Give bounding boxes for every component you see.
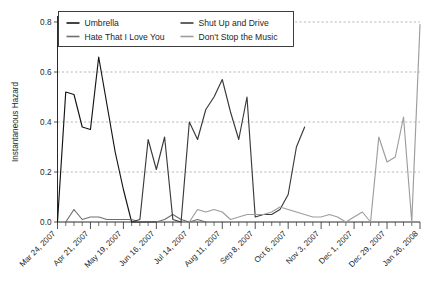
y-axis-title: Instantaneous Hazard [11,82,20,163]
y-tick-label: 0.0 [40,218,52,227]
y-tick-label: 0.4 [40,118,52,127]
legend-label: Don't Stop the Music [199,32,279,42]
y-tick-label: 0.2 [40,168,52,177]
chart-svg: 0.00.20.40.60.8 Mar 24, 2007Apr 21, 2007… [0,0,428,293]
legend-label: Umbrella [85,18,120,28]
legend-label: Shut Up and Drive [199,18,269,28]
y-tick-label: 0.8 [40,18,52,27]
legend-label: Hate That I Love You [85,32,165,42]
y-tick-label: 0.6 [40,68,52,77]
hazard-chart: 0.00.20.40.60.8 Mar 24, 2007Apr 21, 2007… [0,0,428,293]
chart-legend: UmbrellaShut Up and DriveHate That I Lov… [59,12,294,47]
